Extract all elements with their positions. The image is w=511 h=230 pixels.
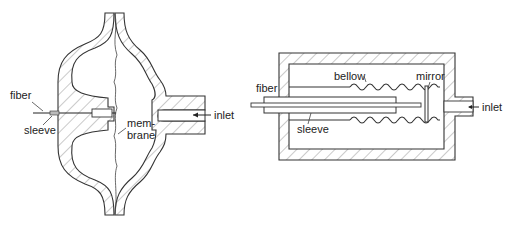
label-membrane-1: mem- <box>127 117 155 129</box>
label-inlet-right: inlet <box>482 101 502 113</box>
membrane-sensor-diagram: fiber sleeve mem- brane inlet <box>10 13 234 215</box>
bellow-sensor-diagram: fiber bellow mirror sleeve inlet <box>251 53 502 160</box>
figure-canvas: fiber sleeve mem- brane inlet fiber bell… <box>0 0 511 230</box>
label-inlet-left: inlet <box>214 109 234 121</box>
label-sleeve-left: sleeve <box>24 124 56 136</box>
sleeve-rect <box>92 109 112 117</box>
label-bellow: bellow <box>334 70 365 82</box>
leader-membrane <box>118 128 126 134</box>
sleeve-small <box>50 111 59 115</box>
bellow-inlet-bore <box>444 101 473 112</box>
label-fiber-right: fiber <box>256 82 278 94</box>
label-membrane-2: brane <box>127 129 155 141</box>
leader-fiber-left <box>32 102 43 111</box>
label-mirror: mirror <box>416 70 445 82</box>
label-fiber-left: fiber <box>10 89 32 101</box>
label-sleeve-right: sleeve <box>297 123 329 135</box>
bellow-fiber <box>251 103 421 107</box>
mirror <box>425 86 428 122</box>
